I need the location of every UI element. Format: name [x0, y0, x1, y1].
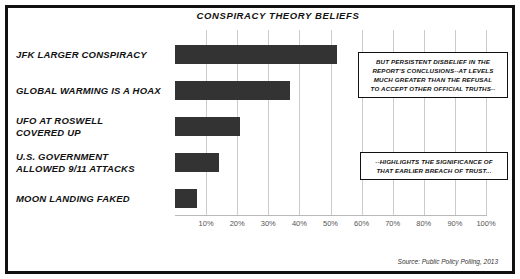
category-label-line: JFK LARGER CONSPIRACY — [16, 49, 174, 61]
annotation-callout-2: --HIGHLIGHTS THE SIGNIFICANCE OFTHAT EAR… — [360, 152, 508, 180]
bar — [175, 189, 197, 208]
source-attribution: Source: Public Policy Polling, 2013 — [398, 258, 498, 265]
annotation-line: TO ACCEPT OTHER OFFICIAL TRUTHS-- — [364, 84, 502, 93]
chart-figure: CONSPIRACY THEORY BELIEFS JFK LARGER CON… — [0, 0, 520, 279]
annotation-line: --HIGHLIGHTS THE SIGNIFICANCE OF — [366, 157, 502, 166]
category-label-line: MOON LANDING FAKED — [16, 193, 174, 205]
bar — [175, 81, 290, 100]
annotation-line: REPORT'S CONCLUSIONS--AT LEVELS — [364, 66, 502, 75]
category-label-line: COVERED UP — [16, 127, 174, 139]
x-tick-label: 100% — [466, 219, 506, 228]
bar — [175, 117, 240, 136]
category-label: GLOBAL WARMING IS A HOAX — [16, 85, 174, 97]
annotation-callout-1: BUT PERSISTENT DISBELIEF IN THEREPORT'S … — [358, 52, 508, 98]
bar — [175, 153, 219, 172]
annotation-line: MUCH GREATER THAN THE REFUSAL — [364, 75, 502, 84]
chart-title: CONSPIRACY THEORY BELIEFS — [18, 10, 520, 21]
category-label: U.S. GOVERNMENTALLOWED 9/11 ATTACKS — [16, 151, 174, 174]
category-label-line: UFO AT ROSWELL — [16, 115, 174, 127]
category-label-line: U.S. GOVERNMENT — [16, 151, 174, 163]
annotation-line: BUT PERSISTENT DISBELIEF IN THE — [364, 57, 502, 66]
category-label: JFK LARGER CONSPIRACY — [16, 49, 174, 61]
category-label-line: GLOBAL WARMING IS A HOAX — [16, 85, 174, 97]
annotation-line: THAT EARLIER BREACH OF TRUST... — [366, 166, 502, 175]
category-axis-labels: JFK LARGER CONSPIRACYGLOBAL WARMING IS A… — [16, 30, 174, 215]
category-label: UFO AT ROSWELLCOVERED UP — [16, 115, 174, 138]
x-axis-line — [175, 215, 487, 216]
bar — [175, 45, 337, 64]
category-label: MOON LANDING FAKED — [16, 193, 174, 205]
category-label-line: ALLOWED 9/11 ATTACKS — [16, 163, 174, 175]
